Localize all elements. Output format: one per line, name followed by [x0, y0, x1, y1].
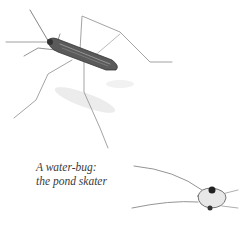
water-shadow	[53, 82, 118, 117]
pond-skater-large	[6, 10, 172, 148]
pond-skater-small	[132, 166, 238, 211]
pond-skater-illustration	[0, 0, 251, 225]
caption: A water-bug: the pond skater	[36, 160, 107, 188]
caption-line-2: the pond skater	[36, 174, 107, 188]
caption-line-1: A water-bug:	[36, 160, 107, 174]
